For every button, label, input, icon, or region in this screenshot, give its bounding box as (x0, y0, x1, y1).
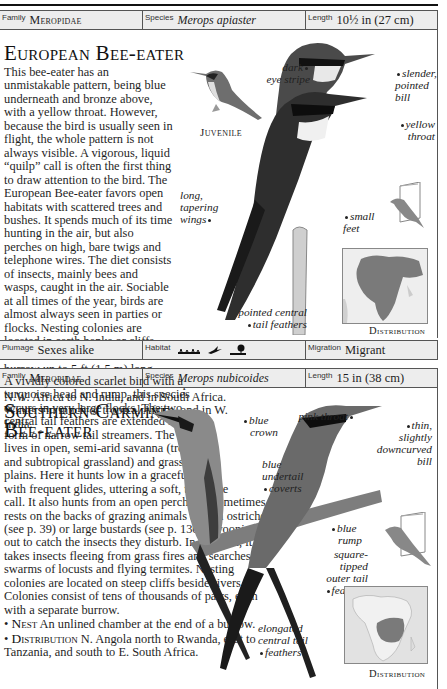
annotation-dark-eye-stripe: dark eye stripe (250, 61, 310, 85)
habitat-cell: Habitat (143, 341, 306, 359)
family-cell: Family Meropidae (0, 11, 143, 29)
annotation-blue-undertail-coverts: blue undertail coverts (262, 458, 312, 494)
size-comparison-icon (390, 182, 432, 232)
flying-bird-icon (208, 345, 222, 355)
size-comparison-icon (385, 512, 433, 568)
species-info-bar-1: Family Meropidae Species Merops apiaster… (0, 10, 438, 30)
distribution-caption: Distribution (369, 668, 425, 679)
migration-label: Migration (308, 343, 341, 352)
length-value: 10½ in (27 cm) (336, 13, 413, 28)
description-text: This bee-eater has an unmistakable patte… (4, 66, 174, 349)
plumage-label: Plumage (2, 343, 34, 352)
annotation-slender-bill: slender, pointed bill (395, 67, 440, 103)
distribution-heading: Distribution (11, 631, 77, 646)
plumage-value: Sexes alike (38, 343, 95, 358)
entry-panel-southern-carmine-bee-eater: Southern Carmine Bee-eater A vividly col… (0, 388, 438, 689)
top-rule (0, 4, 438, 6)
species-label: Species (145, 13, 173, 22)
length-label: Length (308, 13, 332, 22)
annotation-pointed-tail: pointed central tail feathers (225, 306, 307, 330)
annotation-small-feet: small feet (343, 210, 383, 234)
migration-cell: Migration Migrant (306, 341, 437, 359)
family-value: Meropidae (30, 13, 82, 28)
distribution-caption: Distribution (369, 325, 425, 336)
family-label: Family (2, 13, 26, 22)
entry-panel-european-bee-eater: European Bee-eater This bee-eater has an… (0, 30, 438, 338)
annotation-pink-throat: pink throat (285, 410, 355, 422)
annotation-blue-rump: blue rump (330, 522, 370, 546)
nest-heading: Nest (11, 616, 37, 631)
length-value: 15 in (38 cm) (336, 371, 404, 386)
species-details-bar-1: Plumage Sexes alike Habitat Migration Mi… (0, 340, 438, 360)
species-title: European Bee-eater (4, 43, 184, 63)
scrub-tree-icon (230, 344, 246, 356)
annotation-long-wings: long, tapering wings (180, 189, 220, 225)
length-label: Length (308, 371, 332, 380)
plumage-cell: Plumage Sexes alike (0, 341, 143, 359)
annotation-blue-crown: blue crown (242, 414, 282, 438)
habitat-label: Habitat (145, 343, 170, 352)
species-value: Merops apiaster (177, 13, 256, 28)
annotation-elongated-central-tail: elongated central tail feathers (258, 622, 320, 658)
migration-value: Migrant (345, 343, 385, 358)
distribution-map (344, 586, 428, 664)
annotation-yellow-throat: yellow throat (375, 118, 435, 142)
distribution-map (342, 248, 428, 324)
annotation-thin-bill: thin, slightly downcurved bill (370, 419, 432, 467)
length-cell: Length 10½ in (27 cm) (306, 11, 437, 29)
length-cell: Length 15 in (38 cm) (306, 369, 437, 387)
grassland-icon (178, 345, 200, 355)
species-cell: Species Merops apiaster (143, 11, 306, 29)
